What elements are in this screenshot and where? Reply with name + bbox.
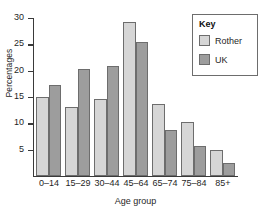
y-tick-label-20: 20 [0, 65, 24, 75]
bar-uk-15–29 [78, 69, 91, 176]
bar-uk-65–74 [165, 130, 178, 176]
y-tick-20 [28, 71, 34, 72]
y-tick-label-15: 15 [0, 91, 24, 101]
bar-chart: Percentages 51015202530 0–1415–2930–4445… [0, 0, 263, 217]
y-tick-label-5: 5 [0, 144, 24, 154]
bar-rother-0–14 [36, 97, 49, 176]
bar-group-65–74 [152, 18, 177, 176]
bar-uk-45–64 [136, 42, 149, 176]
bar-rother-15–29 [65, 107, 78, 176]
y-tick-10 [28, 123, 34, 124]
y-tick-30 [28, 18, 34, 19]
bar-group-0–14 [36, 18, 61, 176]
x-tick-label-85+: 85+ [203, 178, 243, 188]
bar-group-45–64 [123, 18, 148, 176]
bar-rother-30–44 [94, 99, 107, 176]
bar-uk-30–44 [107, 66, 120, 176]
y-tick-label-25: 25 [0, 38, 24, 48]
legend-label-rother: Rother [215, 36, 242, 46]
legend-label-uk: UK [215, 55, 228, 65]
bar-group-15–29 [65, 18, 90, 176]
bar-uk-75–84 [194, 146, 207, 176]
legend: Key Rother UK [192, 14, 258, 76]
legend-swatch-uk [199, 54, 210, 65]
bar-uk-85+ [223, 163, 236, 176]
bar-uk-0–14 [49, 85, 62, 176]
legend-title: Key [199, 19, 216, 29]
x-axis-title: Age group [33, 196, 238, 206]
y-tick-15 [28, 97, 34, 98]
y-tick-label-10: 10 [0, 117, 24, 127]
bar-rother-45–64 [123, 22, 136, 176]
bar-group-30–44 [94, 18, 119, 176]
bar-rother-75–84 [181, 122, 194, 176]
bar-rother-65–74 [152, 104, 165, 176]
bar-rother-85+ [210, 150, 223, 176]
legend-swatch-rother [199, 35, 210, 46]
y-tick-25 [28, 44, 34, 45]
y-tick-5 [28, 150, 34, 151]
y-tick-label-30: 30 [0, 12, 24, 22]
